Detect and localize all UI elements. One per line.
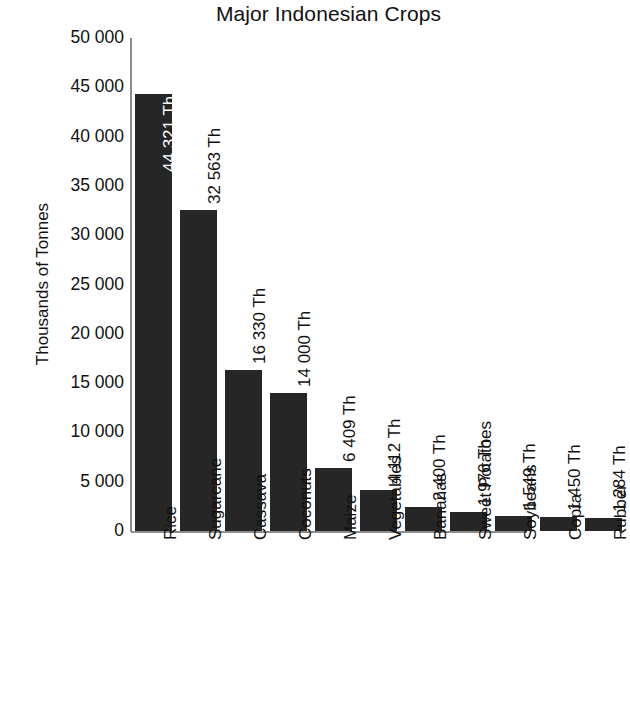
bar-group: 1 549 Th (495, 38, 532, 531)
y-axis-tick-label: 25 000 (4, 276, 124, 294)
y-axis-tick-label: 15 000 (4, 374, 124, 392)
bar-group: 2 400 Th (405, 38, 442, 531)
x-axis-category-label: Sweet Potatoes (477, 421, 494, 540)
y-axis-tick-label: 20 000 (4, 325, 124, 343)
x-axis-category-label: Cassava (252, 474, 269, 540)
bar-group: 16 330 Th (225, 38, 262, 531)
x-axis-line (131, 531, 527, 533)
bar-group: 1 450 Th (540, 38, 577, 531)
x-axis-category-label: Copra (567, 494, 584, 540)
y-axis-tick-label: 10 000 (4, 423, 124, 441)
bar-group: 44 321 Th (135, 38, 172, 531)
bar-value-label: 44 321 Th (161, 96, 178, 172)
bar-value-label: 14 000 Th (296, 311, 313, 387)
x-axis-category-label: Coconuts (297, 468, 314, 540)
y-axis-tick-labels: 05 00010 00015 00020 00025 00030 00035 0… (0, 0, 124, 718)
y-axis-tick-label: 0 (4, 522, 124, 540)
y-axis-tick-label: 30 000 (4, 226, 124, 244)
y-axis-tick-label: 35 000 (4, 177, 124, 195)
bar-group: 14 000 Th (270, 38, 307, 531)
chart-title: Major Indonesian Crops (131, 2, 526, 26)
x-axis-category-label: Rice (162, 506, 179, 540)
bar-group: 6 409 Th (315, 38, 352, 531)
bar-value-label: 16 330 Th (251, 288, 268, 364)
x-axis-category-label: Sugarcane (207, 458, 224, 540)
bar-value-label: 6 409 Th (341, 395, 358, 462)
x-axis-category-label: Vegetables (387, 456, 404, 540)
plot-area: 44 321 Th32 563 Th16 330 Th14 000 Th6 40… (131, 38, 527, 531)
x-axis-category-label: Bananas (432, 473, 449, 540)
x-axis-category-label: Soybeans (522, 464, 539, 540)
y-axis-tick-label: 5 000 (4, 473, 124, 491)
x-axis-category-label: Maize (342, 495, 359, 540)
bar-value-label: 32 563 Th (206, 128, 223, 204)
y-axis-tick-label: 50 000 (4, 29, 124, 47)
y-axis-tick-label: 45 000 (4, 78, 124, 96)
x-axis-category-label: Rubber (612, 484, 629, 540)
bar-group: 1 284 Th (585, 38, 622, 531)
y-axis-tick-label: 40 000 (4, 128, 124, 146)
